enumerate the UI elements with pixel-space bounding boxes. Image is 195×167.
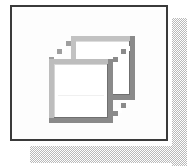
icon-panel[interactable]: 3D Cube [10, 5, 168, 141]
icon-label: 3D Cube [12, 7, 13, 8]
wireframe-cube-svg [46, 33, 138, 125]
icon-panel-inner: 3D Cube [12, 7, 166, 139]
screenshot-canvas: 3D Cube [0, 0, 195, 167]
wireframe-cube-icon[interactable] [46, 33, 138, 125]
panel-shadow-right [172, 18, 187, 166]
cube-connector-topleft [49, 41, 71, 62]
panel-shadow-bottom [30, 146, 187, 163]
